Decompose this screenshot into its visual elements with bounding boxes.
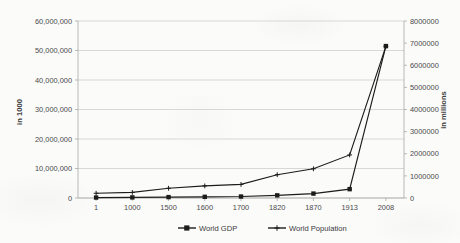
x-tick-label: 1913 (341, 203, 357, 212)
chart-legend[interactable]: World GDPWorld Population (178, 224, 347, 233)
data-point-marker (347, 187, 351, 191)
chart-container: 010,000,00020,000,00030,000,00040,000,00… (0, 0, 460, 243)
data-point-marker (274, 225, 280, 231)
x-tick-label: 2008 (378, 203, 394, 212)
x-tick-label: 1700 (233, 203, 249, 212)
left-tick-label: 50,000,000 (35, 46, 72, 55)
right-axis-title: in millions (439, 91, 448, 129)
data-point-marker (275, 193, 279, 197)
data-point-marker (166, 186, 171, 191)
legend-marker-square (184, 225, 189, 230)
x-tick-label: 1500 (160, 203, 176, 212)
gridlines (78, 21, 404, 198)
data-point-marker (202, 184, 207, 189)
left-tick-label: 0 (68, 194, 72, 203)
line-chart: 010,000,00020,000,00030,000,00040,000,00… (0, 0, 460, 243)
right-tick-label: 8000000 (410, 17, 439, 26)
data-point-marker (94, 195, 98, 199)
x-tick-label: 1 (94, 203, 98, 212)
x-tick-label: 1600 (197, 203, 213, 212)
data-point-marker (94, 191, 99, 196)
left-tick-label: 40,000,000 (35, 76, 72, 85)
x-tick-label: 1000 (124, 203, 140, 212)
legend-label: World Population (289, 224, 347, 233)
right-axis-tick-labels: 0100000020000003000000400000050000006000… (404, 17, 439, 203)
series-line (96, 46, 386, 193)
series-line (96, 46, 386, 197)
x-axis-tick-labels: 110001500160017001820187019132008 (94, 198, 394, 212)
data-point-marker (239, 194, 243, 198)
right-tick-label: 2000000 (410, 149, 439, 158)
left-axis-title: in 1000 (15, 99, 24, 125)
right-tick-label: 7000000 (410, 39, 439, 48)
right-tick-label: 3000000 (410, 127, 439, 136)
legend-label: World GDP (199, 224, 237, 233)
left-tick-label: 20,000,000 (35, 135, 72, 144)
legend-item-world-gdp[interactable]: World GDP (178, 224, 237, 233)
data-point-marker (311, 191, 315, 195)
series-world-gdp (94, 44, 388, 200)
left-tick-label: 30,000,000 (35, 105, 72, 114)
data-point-marker (203, 195, 207, 199)
series-world-population (94, 44, 389, 196)
data-point-marker (130, 195, 134, 199)
right-tick-label: 1000000 (410, 172, 439, 181)
data-point-marker (311, 166, 316, 171)
x-tick-label: 1870 (305, 203, 321, 212)
legend-item-world-population[interactable]: World Population (268, 224, 347, 233)
x-tick-label: 1820 (269, 203, 285, 212)
data-point-marker (347, 153, 352, 158)
right-tick-label: 5000000 (410, 83, 439, 92)
data-point-marker (275, 172, 280, 177)
data-point-marker (239, 182, 244, 187)
data-point-marker (130, 190, 135, 195)
right-tick-label: 6000000 (410, 61, 439, 70)
right-tick-label: 0 (410, 194, 414, 203)
left-axis-tick-labels: 010,000,00020,000,00030,000,00040,000,00… (35, 17, 78, 203)
left-tick-label: 60,000,000 (35, 17, 72, 26)
left-tick-label: 10,000,000 (35, 164, 72, 173)
data-series (94, 44, 389, 200)
data-point-marker (166, 195, 170, 199)
right-tick-label: 4000000 (410, 105, 439, 114)
